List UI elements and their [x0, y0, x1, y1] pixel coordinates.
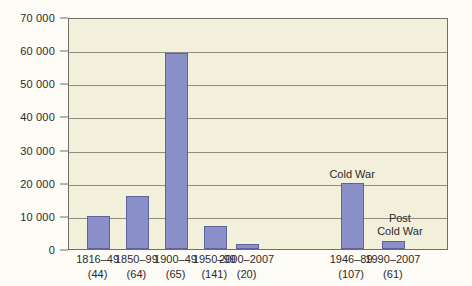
x-tick-range: 1990–2007 [365, 252, 420, 267]
annotation-cold-war: Cold War [329, 168, 374, 181]
x-tick-group: 2000–2007(20) [219, 252, 274, 282]
annotation-post-cold-war: PostCold War [377, 212, 422, 238]
y-tick-label: 20 000 [20, 178, 55, 190]
y-tick-mark [60, 183, 68, 184]
bar [204, 226, 227, 249]
y-tick-mark [60, 51, 68, 52]
y-tick-mark [60, 84, 68, 85]
bar [382, 241, 405, 249]
bar [236, 244, 259, 249]
x-tick-count: (64) [115, 267, 158, 282]
x-tick-group: 1816–49(44) [76, 252, 119, 282]
y-tick-label: 60 000 [20, 45, 55, 57]
y-tick-label: 40 000 [20, 111, 55, 123]
x-tick-count: (65) [154, 267, 197, 282]
x-tick-count: (44) [76, 267, 119, 282]
y-tick-mark [60, 216, 68, 217]
y-tick-label: 70 000 [20, 12, 55, 24]
plot-area: Cold WarPostCold War [68, 18, 448, 250]
bar [126, 196, 149, 249]
x-tick-count: (61) [365, 267, 420, 282]
y-tick-mark [60, 18, 68, 19]
y-tick-mark [60, 250, 68, 251]
y-axis: 010 00020 00030 00040 00050 00060 00070 … [0, 18, 68, 250]
chart-figure: 010 00020 00030 00040 00050 00060 00070 … [0, 0, 472, 286]
x-tick-range: 1850–99 [115, 252, 158, 267]
x-tick-group: 1900–49(65) [154, 252, 197, 282]
x-tick-range: 1816–49 [76, 252, 119, 267]
y-tick-mark [60, 117, 68, 118]
y-tick-label: 50 000 [20, 78, 55, 90]
bar [341, 183, 364, 249]
x-axis: 1816–49(44)1850–99(64)1900–49(65)1950–99… [0, 252, 472, 286]
x-tick-range: 2000–2007 [219, 252, 274, 267]
y-tick-label: 30 000 [20, 145, 55, 157]
annotation-post-cold-war-line1: Post [389, 212, 411, 224]
y-tick-mark [60, 150, 68, 151]
x-tick-count: (20) [219, 267, 274, 282]
x-tick-group: 1990–2007(61) [365, 252, 420, 282]
annotation-post-cold-war-line2: Cold War [377, 225, 422, 237]
bar [87, 216, 110, 249]
y-tick-label: 10 000 [20, 211, 55, 223]
x-tick-group: 1850–99(64) [115, 252, 158, 282]
x-tick-range: 1900–49 [154, 252, 197, 267]
bar [165, 53, 188, 249]
